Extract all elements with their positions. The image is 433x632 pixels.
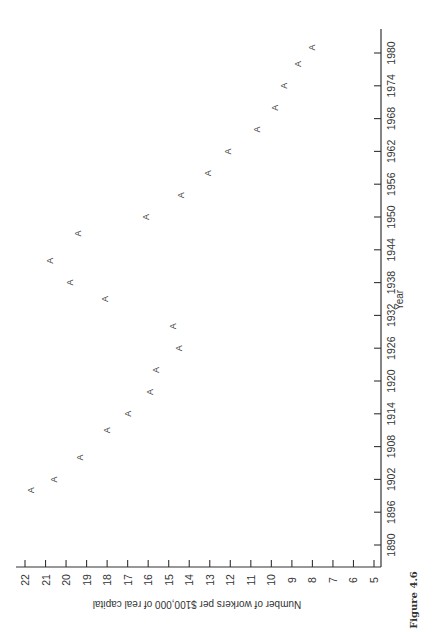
data-point: A bbox=[65, 280, 75, 286]
value-tick-label: 17 bbox=[122, 574, 134, 586]
year-tick-label: 1896 bbox=[385, 500, 397, 524]
data-point: A bbox=[174, 345, 184, 351]
data-point: A bbox=[252, 127, 262, 133]
value-tick-label: 7 bbox=[327, 577, 339, 583]
data-point: A bbox=[141, 214, 151, 220]
value-tick-label: 10 bbox=[265, 574, 277, 586]
data-point: A bbox=[151, 367, 161, 373]
data-points: AAAAAAAAAAAAAAAAAAAAAA bbox=[26, 45, 317, 494]
value-ticks: 5678910111213141516171819202122 bbox=[19, 560, 380, 586]
value-tick-label: 21 bbox=[40, 574, 52, 586]
axes bbox=[16, 29, 381, 567]
value-tick-label: 20 bbox=[60, 574, 72, 586]
data-point: A bbox=[223, 148, 233, 154]
data-point: A bbox=[307, 45, 317, 51]
year-tick-label: 1944 bbox=[385, 238, 397, 262]
data-point: A bbox=[73, 230, 83, 236]
value-tick-label: 12 bbox=[224, 574, 236, 586]
value-tick-label: 5 bbox=[368, 577, 380, 583]
figure-caption: Figure 4.6 bbox=[408, 571, 419, 629]
data-point: A bbox=[270, 105, 280, 111]
data-point: A bbox=[26, 487, 36, 493]
value-tick-label: 13 bbox=[204, 574, 216, 586]
data-point: A bbox=[145, 389, 155, 395]
value-tick-label: 9 bbox=[286, 577, 298, 583]
value-tick-label: 6 bbox=[347, 577, 359, 583]
data-point: A bbox=[45, 258, 55, 264]
year-tick-label: 1968 bbox=[385, 107, 397, 131]
data-point: A bbox=[203, 170, 213, 176]
data-point: A bbox=[49, 476, 59, 482]
data-point: A bbox=[100, 296, 110, 302]
year-tick-label: 1914 bbox=[385, 402, 397, 426]
year-tick-label: 1890 bbox=[385, 533, 397, 557]
data-point: A bbox=[75, 455, 85, 461]
value-tick-label: 8 bbox=[306, 577, 318, 583]
year-tick-label: 1956 bbox=[385, 172, 397, 196]
value-tick-label: 22 bbox=[19, 574, 31, 586]
value-tick-label: 14 bbox=[183, 574, 195, 586]
year-tick-label: 1962 bbox=[385, 140, 397, 164]
year-axis-title: Year bbox=[394, 289, 405, 310]
value-axis-title: Number of workers per $100,000 of real c… bbox=[93, 599, 301, 610]
value-tick-label: 11 bbox=[245, 574, 257, 585]
scatter-chart: 1890189619021908191419201926193219381944… bbox=[0, 0, 433, 632]
data-point: A bbox=[293, 61, 303, 67]
value-tick-label: 16 bbox=[142, 574, 154, 586]
data-point: A bbox=[123, 411, 133, 417]
year-tick-label: 1902 bbox=[385, 468, 397, 492]
data-point: A bbox=[279, 83, 289, 89]
year-tick-label: 1974 bbox=[385, 74, 397, 98]
data-point: A bbox=[176, 192, 186, 198]
data-point: A bbox=[168, 323, 178, 329]
year-tick-label: 1950 bbox=[385, 205, 397, 229]
value-tick-label: 19 bbox=[81, 574, 93, 586]
year-tick-label: 1980 bbox=[385, 41, 397, 65]
year-tick-label: 1926 bbox=[385, 336, 397, 360]
year-tick-label: 1908 bbox=[385, 435, 397, 459]
value-tick-label: 15 bbox=[163, 574, 175, 586]
data-point: A bbox=[102, 427, 112, 433]
value-tick-label: 18 bbox=[101, 574, 113, 586]
year-tick-label: 1920 bbox=[385, 369, 397, 393]
